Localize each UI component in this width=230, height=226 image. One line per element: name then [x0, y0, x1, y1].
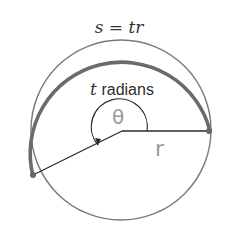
radius-label: r	[155, 136, 165, 161]
arc-start-point	[206, 128, 212, 134]
circle	[31, 40, 211, 220]
theta-label: θ	[112, 105, 124, 129]
angle-label: t radians	[90, 79, 154, 99]
arc-end-point	[30, 172, 36, 178]
arc-length-label: s = tr	[95, 17, 145, 37]
circle-arc-diagram: s = tr t radians θ r	[0, 0, 230, 226]
angle-label-unit: radians	[97, 81, 154, 98]
radius-line-terminal	[33, 131, 122, 175]
